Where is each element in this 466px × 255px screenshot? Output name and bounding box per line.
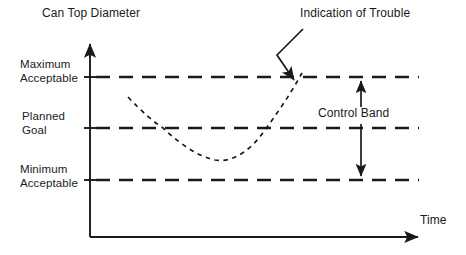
y-axis-title: Can Top Diameter — [42, 7, 140, 21]
x-axis-title: Time — [420, 214, 447, 228]
label-maximum-acceptable: Maximum Acceptable — [20, 58, 78, 85]
data-curve-can-top-diameter — [128, 73, 302, 160]
label-minimum-acceptable: Minimum Acceptable — [20, 163, 78, 190]
annotation-control-band: Control Band — [318, 107, 389, 121]
label-planned-goal: Planned Goal — [22, 110, 65, 137]
indication-of-trouble-leader — [277, 29, 303, 80]
diagram-canvas — [0, 0, 466, 255]
control-band-diagram: Can Top Diameter Time Maximum Acceptable… — [0, 0, 466, 255]
annotation-indication-of-trouble: Indication of Trouble — [300, 7, 410, 21]
